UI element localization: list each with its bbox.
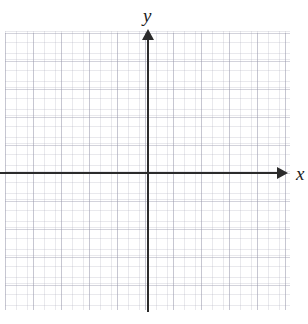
x-axis-label: x <box>296 164 304 183</box>
x-axis-line <box>0 172 278 174</box>
x-axis-arrowhead-icon <box>277 167 288 179</box>
coordinate-plane: x y <box>0 0 308 324</box>
y-axis-line <box>147 40 149 312</box>
y-axis-arrowhead-icon <box>142 29 154 40</box>
y-axis-label: y <box>143 6 151 25</box>
